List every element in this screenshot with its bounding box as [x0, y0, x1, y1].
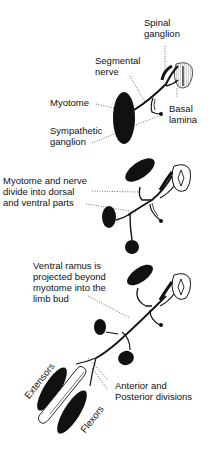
- label-segmental-nerve: Segmental nerve: [95, 55, 140, 77]
- label-sympathetic-ganglion: Sympathetic ganglion: [50, 125, 102, 147]
- stage-2-figure: [86, 154, 191, 254]
- label-spinal-ganglion: Spinal ganglion: [144, 17, 180, 39]
- label-ventral-ramus: Ventral ramus is projected beyond myotom…: [33, 260, 106, 304]
- label-myotome: Myotome: [50, 97, 89, 108]
- label-anterior-posterior-divisions: Anterior and Posterior divisions: [115, 380, 192, 402]
- label-divide-dorsal-ventral: Myotome and nerve divide into dorsal and…: [3, 175, 87, 208]
- label-basal-lamina: Basal lamina: [169, 103, 197, 125]
